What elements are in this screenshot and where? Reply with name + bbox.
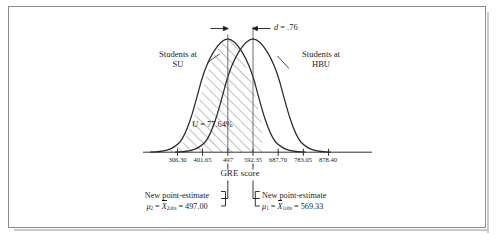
overlap-symbol: U	[192, 120, 198, 129]
distribution-plot	[0, 0, 501, 243]
xbar2-overbar	[162, 200, 167, 201]
point-estimate-left-formula: μ2 = X2obs = 497.00	[133, 201, 221, 212]
point-estimate-left-value: 497.00	[185, 202, 208, 211]
effect-size-symbol: d	[274, 23, 278, 32]
point-estimate-box-right: New point-estimate μ1 = X1obs = 569.33	[262, 190, 366, 212]
effect-size-label: d = .76	[274, 23, 298, 32]
xbar2-group: X	[162, 201, 167, 212]
effect-size-arrows	[211, 26, 271, 30]
xbar2-subscript: 2obs	[167, 205, 177, 211]
mu2-equals: =	[155, 202, 160, 211]
xbar1-equals: =	[294, 202, 299, 211]
mu2-subscript: 2	[151, 205, 154, 211]
xbar2-symbol: X	[162, 202, 167, 211]
point-estimate-right-formula: μ1 = X1obs = 569.33	[262, 201, 366, 212]
mu1-subscript: 1	[266, 205, 269, 211]
xbar1-overbar	[278, 200, 283, 201]
figure-page: Students at SU Students at HBU d = .76 U…	[0, 0, 501, 243]
label-students-hbu-line2: HBU	[288, 60, 354, 70]
effect-size-equals: =	[280, 23, 285, 32]
tick-label-878: 878.40	[309, 156, 347, 163]
point-estimate-right-value: 569.33	[301, 202, 324, 211]
label-students-hbu: Students at HBU	[288, 50, 354, 69]
xbar1-symbol: X	[277, 202, 282, 211]
xbar2-equals: =	[178, 202, 183, 211]
point-estimate-box-left: New point-estimate μ2 = X2obs = 497.00	[133, 190, 221, 212]
callout-bracket-left	[221, 187, 228, 207]
effect-size-value: .76	[287, 23, 297, 32]
overlap-equals: =	[200, 120, 205, 129]
mu1-equals: =	[271, 202, 276, 211]
axis-title-gre-score: GRE score	[210, 168, 270, 178]
overlap-label: U = 77.64%	[192, 120, 233, 129]
point-estimate-left-title: New point-estimate	[133, 190, 221, 201]
xbar1-group: X	[277, 201, 282, 212]
label-students-su: Students at SU	[147, 50, 209, 69]
label-students-su-line2: SU	[147, 60, 209, 70]
xbar1-subscript: 1obs	[282, 205, 292, 211]
overlap-value: 77.64%	[207, 120, 233, 129]
callout-bracket-right	[253, 187, 260, 207]
